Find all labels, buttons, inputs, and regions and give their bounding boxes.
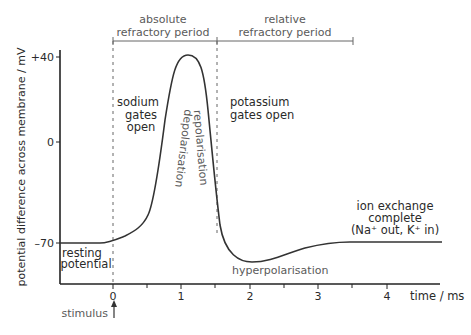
- x-axis-label: time / ms: [410, 289, 464, 303]
- ion-exchange-label-3: (Na⁺ out, K⁺ in): [351, 223, 439, 237]
- x-tick-2: 2: [247, 290, 254, 303]
- sodium-label-1: sodium: [117, 95, 159, 109]
- repolarisation-label: repolarisation: [191, 109, 211, 186]
- y-tick-plus40: +40: [31, 51, 54, 64]
- x-tick-4: 4: [384, 290, 391, 303]
- depolarisation-label: depolarisation: [172, 109, 194, 188]
- y-tick-minus70: –70: [35, 237, 55, 250]
- y-axis-label: potential difference across membrane / m…: [15, 47, 28, 286]
- hyperpolarisation-label: hyperpolarisation: [232, 264, 328, 277]
- potassium-label-1: potassium: [230, 95, 290, 109]
- potassium-label-2: gates open: [230, 108, 294, 122]
- relative-label-2: refractory period: [239, 26, 332, 39]
- absolute-label-2: refractory period: [117, 26, 210, 39]
- resting-label-2: potential: [60, 257, 111, 271]
- absolute-label-1: absolute: [139, 13, 187, 26]
- relative-label-1: relative: [264, 13, 306, 26]
- x-tick-3: 3: [315, 290, 322, 303]
- stimulus-label: stimulus: [61, 307, 108, 320]
- action-potential-diagram: +40 0 –70 0 1 2 3 4 time / ms potential …: [0, 0, 471, 335]
- y-tick-zero: 0: [47, 136, 54, 149]
- x-tick-1: 1: [178, 290, 185, 303]
- sodium-label-3: open: [127, 120, 156, 134]
- x-tick-0: 0: [110, 290, 117, 303]
